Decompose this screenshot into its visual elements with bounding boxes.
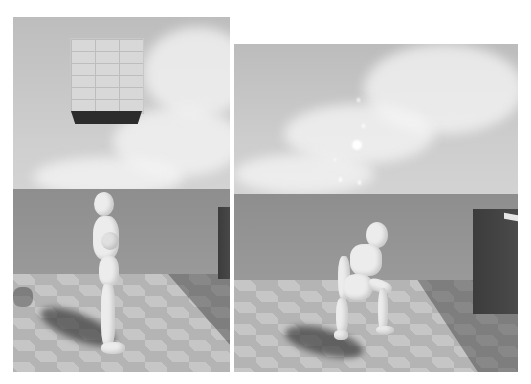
dark-block xyxy=(473,209,518,314)
brick-block xyxy=(70,38,144,114)
torso xyxy=(350,244,382,276)
brick-block-base xyxy=(71,111,142,124)
cloud xyxy=(234,154,374,194)
foot xyxy=(101,342,125,354)
floor-shadow-left xyxy=(13,287,33,307)
particle-spark xyxy=(362,124,365,128)
foot xyxy=(334,330,348,340)
right-render-panel xyxy=(234,44,518,372)
head xyxy=(94,192,114,216)
mannequin-standing xyxy=(91,192,131,360)
arm xyxy=(101,232,119,250)
left-render-panel xyxy=(13,17,230,372)
leg-back xyxy=(336,298,348,334)
hips xyxy=(344,274,372,300)
leg xyxy=(101,284,115,346)
dark-wall xyxy=(218,207,230,279)
particle-spark xyxy=(339,177,342,182)
foot xyxy=(376,326,394,334)
mannequin-crouching xyxy=(332,222,402,352)
particle-spark xyxy=(352,140,362,150)
particle-spark xyxy=(334,158,336,161)
particle-spark xyxy=(357,98,360,102)
hips xyxy=(99,256,119,286)
particle-spark xyxy=(358,180,361,185)
